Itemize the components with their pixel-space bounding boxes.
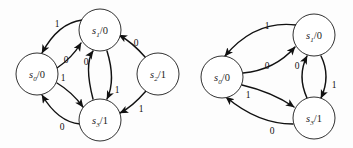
edge-s0-s1: [57, 43, 81, 68]
edge-label-s3-s0: 0: [60, 122, 65, 132]
node-group: s0/0 s1/0 s2/1 s3/1: [16, 9, 179, 141]
edge-label-s1-s0: 1: [265, 21, 270, 31]
edge-label-s1-s3: 1: [115, 85, 120, 95]
edge-s1-s0: [225, 24, 296, 56]
edge-label-s0-s1: 0: [265, 61, 270, 71]
edge-label-s2-s3: 1: [139, 104, 144, 114]
edge-s3-s1: [89, 51, 94, 99]
edge-s3-s1: [302, 56, 307, 98]
right-state-diagram: s0/0 s1/0 s3/1 1 0 0 1 1 0: [190, 0, 353, 148]
edge-label-s0-s3: 1: [246, 90, 251, 100]
edge-s3-s0: [42, 95, 80, 124]
edge-s1-s3: [321, 56, 326, 98]
edge-label-s0-s1: 0: [64, 55, 69, 65]
edge-s2-s1: [119, 35, 146, 58]
edge-label-s2-s1: 0: [134, 38, 139, 48]
edge-label-s1-s0: 1: [55, 19, 60, 29]
edge-label-s1-s3: 1: [332, 80, 337, 90]
edge-s1-s0: [42, 20, 82, 53]
edge-label-s0-s3: 1: [61, 73, 66, 83]
edge-label-s3-s0: 0: [270, 126, 275, 136]
state-diagram-figure: s0/0 s1/0 s2/1 s3/1 1 0 0 1 1 0 0 1: [0, 0, 353, 148]
edge-label-s3-s1: 0: [295, 61, 300, 71]
edge-s0-s3: [57, 83, 83, 107]
edge-s1-s3: [107, 51, 112, 99]
left-state-diagram: s0/0 s1/0 s2/1 s3/1 1 0 0 1 1 0 0 1: [0, 0, 190, 148]
edge-label-s3-s1: 0: [84, 57, 89, 67]
